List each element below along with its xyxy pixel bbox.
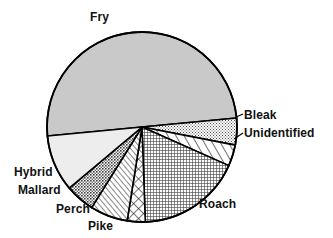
pie-chart-canvas (0, 0, 333, 238)
slice-label-bleak: Bleak (244, 109, 277, 122)
slice-label-unidentified: Unidentified (244, 127, 315, 140)
slice-label-pike: Pike (88, 220, 113, 233)
slice-label-roach: Roach (199, 198, 236, 211)
slice-label-mallard: Mallard (18, 184, 61, 197)
pie-chart-figure: Fry Bleak Unidentified Roach Pike Perch … (0, 0, 333, 238)
slice-label-hybrid: Hybrid (14, 166, 53, 179)
slice-label-perch: Perch (56, 203, 90, 216)
slice-label-fry: Fry (90, 11, 109, 24)
pie-slices (47, 32, 237, 222)
